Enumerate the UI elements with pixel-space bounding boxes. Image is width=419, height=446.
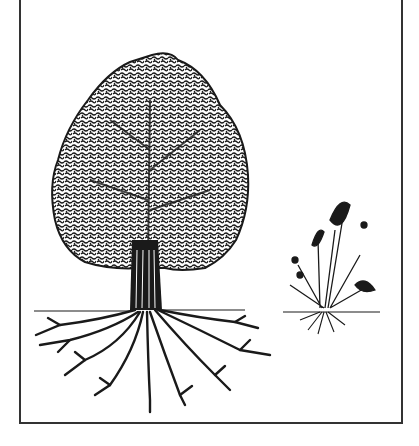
tree-roots	[36, 310, 270, 412]
grass-plant	[290, 202, 375, 308]
tree-trunk	[130, 240, 162, 310]
ground-line	[34, 310, 380, 312]
grass-roots	[300, 312, 345, 334]
tree-canopy	[52, 53, 248, 270]
illustration-canvas	[0, 0, 419, 446]
